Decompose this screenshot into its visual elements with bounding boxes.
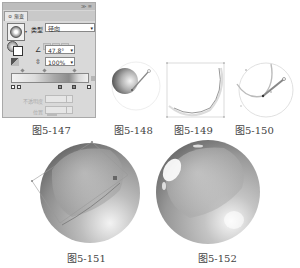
- color-stop[interactable]: [17, 85, 21, 89]
- angle-input[interactable]: 47.8° ▾: [45, 45, 75, 54]
- chevron-down-icon: ▾: [90, 24, 93, 33]
- angle-icon: ∠: [35, 46, 41, 54]
- figure-5-149-crescent-shape: [166, 62, 226, 118]
- figure-caption: 图5-149: [174, 122, 213, 137]
- figure-5-152-glossy-sphere: [152, 138, 264, 246]
- chevron-down-icon[interactable]: [66, 107, 72, 113]
- figure-caption: 图5-150: [235, 122, 274, 137]
- figure-5-148-radial-sphere: [108, 60, 168, 112]
- type-value: 径向: [48, 25, 60, 32]
- aspect-ratio-input[interactable]: 100% ▾: [45, 57, 75, 66]
- opacity-input[interactable]: [45, 95, 73, 103]
- figure-caption: 图5-151: [67, 250, 106, 265]
- type-label: 类型: [31, 25, 43, 34]
- color-stop[interactable]: [11, 85, 15, 89]
- aspect-ratio-value: 100%: [48, 59, 65, 66]
- location-label: 位置: [33, 108, 43, 115]
- delete-stop-icon[interactable]: [91, 76, 95, 81]
- swatch-dropdown-icon[interactable]: ▾: [25, 29, 27, 34]
- figure-caption: 图5-152: [198, 250, 237, 265]
- gradient-slider[interactable]: [11, 73, 89, 83]
- color-stop[interactable]: [87, 85, 91, 89]
- panel-resize-grip[interactable]: [47, 114, 57, 116]
- chevron-down-icon[interactable]: ▾: [70, 46, 73, 55]
- panel-title-bar[interactable]: ≫ ≡: [3, 3, 95, 10]
- chevron-down-icon[interactable]: [66, 96, 72, 102]
- fill-stroke-swatch[interactable]: [7, 41, 23, 55]
- aspect-ratio-icon: ⇳: [35, 58, 41, 66]
- chevron-down-icon[interactable]: ▾: [70, 58, 73, 67]
- type-select[interactable]: 径向 ▾: [45, 23, 95, 32]
- figure-5-151-sphere-with-gradient-handle: [30, 135, 140, 245]
- tab-gradient[interactable]: ≎ 渐变: [4, 11, 28, 21]
- figure-5-150-gradient-applied: [233, 62, 297, 118]
- stroke-swatch-icon: [13, 46, 23, 56]
- radial-gradient-preview-icon: [10, 26, 22, 38]
- stroke-gradient-buttons: [43, 35, 71, 43]
- color-stop[interactable]: [72, 85, 76, 89]
- opacity-label: 不透明度: [23, 97, 43, 104]
- gradient-fill-swatch[interactable]: [7, 23, 25, 41]
- gradient-panel: ≫ ≡ ≎ 渐变 ▾ 类型 径向 ▾ ∠ 47.8° ▾ ⇳ 100% ▾ 不透…: [2, 2, 96, 118]
- location-input[interactable]: [45, 106, 73, 114]
- reverse-gradient-icon[interactable]: [11, 58, 19, 66]
- angle-value: 47.8°: [48, 47, 64, 54]
- panel-menu-icon[interactable]: ≫ ≡: [81, 4, 92, 9]
- color-stop[interactable]: [58, 85, 62, 89]
